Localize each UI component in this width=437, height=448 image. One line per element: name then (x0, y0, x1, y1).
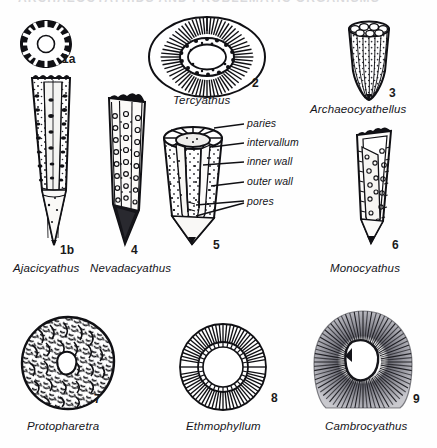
figure-9-section (308, 308, 418, 412)
figure-number-1b: 1b (60, 243, 74, 257)
genus-label-cambrocyathus: Cambrocyathus (325, 420, 407, 432)
figure-number-4: 4 (131, 243, 138, 257)
genus-label-protopharetra: Protopharetra (27, 420, 99, 432)
genus-label-archaeocyathellus: Archaeocyathellus (310, 103, 407, 115)
figure-number-6: 6 (392, 238, 399, 252)
figure-number-5: 5 (213, 238, 220, 252)
genus-label-monocyathus: Monocyathus (330, 262, 400, 274)
figure-number-1a: 1a (62, 52, 75, 66)
figure-2-section (147, 14, 267, 100)
genus-label-nevadacyathus: Nevadacyathus (90, 262, 171, 274)
figure-number-2: 2 (252, 76, 259, 90)
figure-plate: ARCHAEOCYATHIDS AND PROBLEMATIC ORGANISM… (0, 0, 437, 448)
figure-1b-cup (22, 70, 84, 250)
genus-label-tercyathus: Tercyathus (173, 94, 230, 106)
figure-number-3: 3 (389, 86, 396, 100)
genus-label-ethmophyllum: Ethmophyllum (186, 420, 261, 432)
figure-number-7: 7 (94, 392, 101, 406)
annotation-paries: paries (247, 117, 276, 129)
figure-4-cup (95, 92, 157, 252)
annotation-inner-wall: inner wall (247, 155, 292, 167)
annotation-outer-wall: outer wall (247, 175, 293, 187)
figure-8-section (177, 322, 269, 412)
genus-label-ajacicyathus: Ajacicyathus (13, 262, 79, 274)
figure-6-cup (347, 125, 399, 247)
figure-5-labelled-cup (152, 116, 238, 248)
figure-number-8: 8 (271, 391, 278, 405)
figure-number-9: 9 (413, 392, 420, 406)
cropped-header-text: ARCHAEOCYATHIDS AND PROBLEMATIC ORGANISM… (0, 0, 437, 5)
figure-7-section (18, 315, 118, 411)
annotation-pores: pores (247, 195, 274, 207)
annotation-intervallum: intervallum (247, 136, 299, 148)
